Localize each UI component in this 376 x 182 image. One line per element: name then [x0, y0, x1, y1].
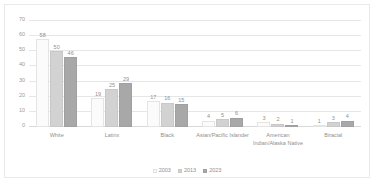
y-axis-tick-label: 20: [19, 93, 25, 99]
bar[interactable]: [105, 89, 118, 127]
y-axis-tick-label: 50: [19, 48, 25, 54]
bar[interactable]: [119, 83, 132, 127]
bar-value-label: 17: [150, 95, 156, 101]
bar-slot: 46: [64, 21, 77, 127]
bar-slot: 6: [230, 21, 243, 127]
bar[interactable]: [147, 101, 160, 127]
bar-value-label: 25: [109, 83, 115, 89]
bar-slot: 15: [175, 21, 188, 127]
bar-slot: 19: [91, 21, 104, 127]
bar-value-label: 29: [123, 77, 129, 83]
bar-slot: 17: [147, 21, 160, 127]
bar[interactable]: [36, 39, 49, 127]
bar-slot: 16: [161, 21, 174, 127]
bar-slot: 25: [105, 21, 118, 127]
bar-group: 134: [306, 21, 361, 127]
bar[interactable]: [313, 125, 326, 127]
plot-area: 010203040506070 585046192529171615456321…: [29, 21, 361, 127]
y-axis-tick-label: 0: [22, 123, 25, 129]
legend-label: 2013: [184, 168, 196, 174]
bar[interactable]: [202, 121, 215, 127]
bar-group: 456: [195, 21, 250, 127]
bar-slot: 5: [216, 21, 229, 127]
bar-value-label: 4: [207, 114, 210, 120]
chart-frame: 010203040506070 585046192529171615456321…: [4, 4, 370, 178]
bar[interactable]: [327, 122, 340, 127]
bar-slot: 58: [36, 21, 49, 127]
bar-slot: 29: [119, 21, 132, 127]
bar[interactable]: [230, 118, 243, 127]
legend-label: 2023: [209, 168, 221, 174]
bar-value-label: 3: [332, 116, 335, 122]
legend-item[interactable]: 2023: [203, 168, 221, 174]
legend-item[interactable]: 2003: [153, 168, 171, 174]
bar-slot: 3: [257, 21, 270, 127]
x-axis-category-label: Black: [140, 131, 195, 148]
legend-item[interactable]: 2013: [178, 168, 196, 174]
bar-slot: 1: [285, 21, 298, 127]
x-axis-category-label: Latinx: [84, 131, 139, 148]
chart-legend: 200320132023: [5, 168, 369, 174]
bar[interactable]: [161, 103, 174, 127]
bar[interactable]: [175, 104, 188, 127]
bar-slot: 50: [50, 21, 63, 127]
chart-screenshot: 010203040506070 585046192529171615456321…: [0, 0, 376, 182]
bar[interactable]: [271, 124, 284, 127]
legend-swatch-icon: [153, 169, 157, 173]
bar[interactable]: [257, 122, 270, 127]
bar-group: 585046: [29, 21, 84, 127]
bar[interactable]: [285, 125, 298, 127]
bar-value-label: 58: [40, 33, 46, 39]
bar-slot: 1: [313, 21, 326, 127]
y-axis-tick-label: 60: [19, 32, 25, 38]
bar-group: 192529: [84, 21, 139, 127]
bar-slot: 2: [271, 21, 284, 127]
bar[interactable]: [91, 98, 104, 127]
bar-value-label: 50: [54, 45, 60, 51]
bar[interactable]: [216, 119, 229, 127]
bar-slot: 4: [341, 21, 354, 127]
y-axis-tick-label: 40: [19, 63, 25, 69]
bar-slot: 4: [202, 21, 215, 127]
y-axis-tick-label: 10: [19, 108, 25, 114]
y-axis-tick-label: 70: [19, 17, 25, 23]
bar-value-label: 6: [235, 111, 238, 117]
bar[interactable]: [341, 121, 354, 127]
x-axis-category-labels: WhiteLatinxBlackAsian/Pacific IslanderAm…: [29, 131, 361, 148]
x-axis-category-label: Biracial: [306, 131, 361, 148]
bar-group: 321: [250, 21, 305, 127]
bar-value-label: 46: [68, 51, 74, 57]
y-axis-tick-label: 30: [19, 78, 25, 84]
bar-value-label: 5: [221, 113, 224, 119]
x-axis-category-label: Asian/Pacific Islander: [195, 131, 250, 148]
bar-group: 171615: [140, 21, 195, 127]
bar[interactable]: [64, 57, 77, 127]
bar-value-label: 16: [164, 96, 170, 102]
legend-swatch-icon: [203, 169, 207, 173]
bar-groups: 585046192529171615456321134: [29, 21, 361, 127]
bar-slot: 3: [327, 21, 340, 127]
x-axis-category-label: White: [29, 131, 84, 148]
legend-label: 2003: [159, 168, 171, 174]
bar[interactable]: [50, 51, 63, 127]
bar-value-label: 19: [95, 92, 101, 98]
bar-value-label: 4: [346, 114, 349, 120]
bar-value-label: 3: [262, 116, 265, 122]
x-axis-category-label: American Indian/Alaska Native: [250, 131, 305, 148]
bar-value-label: 1: [318, 119, 321, 125]
legend-swatch-icon: [178, 169, 182, 173]
bar-value-label: 1: [290, 119, 293, 125]
bar-value-label: 2: [276, 117, 279, 123]
bar-value-label: 15: [178, 98, 184, 104]
